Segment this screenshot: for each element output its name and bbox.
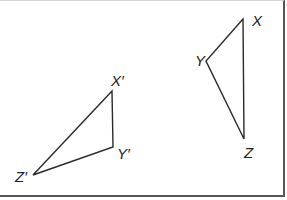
triangle-xyz (206, 19, 244, 139)
vertex-label-x: X (252, 13, 262, 28)
vertex-label-y: Y (195, 53, 205, 68)
vertex-label-z-prime: Z′ (15, 169, 27, 184)
vertex-label-x-prime: X′ (111, 73, 124, 88)
diagram-canvas (0, 0, 287, 200)
vertex-label-y-prime: Y′ (117, 146, 130, 161)
triangle-xyz-prime (33, 91, 113, 175)
vertex-label-z: Z (244, 145, 253, 160)
